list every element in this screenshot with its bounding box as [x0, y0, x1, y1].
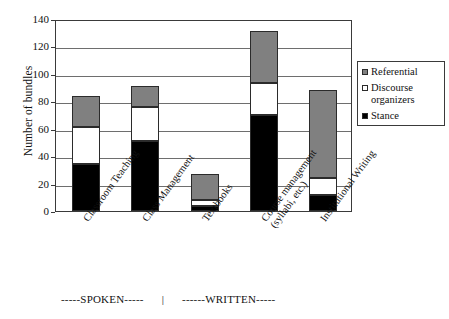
bar-segment-discourse-organizers[interactable] [72, 127, 100, 164]
bar-class-management[interactable] [131, 19, 159, 211]
legend-swatch-discourse-organizers [362, 85, 368, 91]
bar-segment-referential[interactable] [72, 96, 100, 128]
legend-label-stance: Stance [371, 110, 441, 121]
legend-item-stance[interactable]: Stance [362, 110, 441, 121]
register-divider: | [162, 293, 164, 305]
bar-segment-referential[interactable] [250, 31, 278, 83]
y-tick-mark-0 [51, 212, 55, 213]
legend-item-referential[interactable]: Referential [362, 66, 441, 77]
legend-label-discourse-line2: organizers [371, 94, 415, 105]
bar-segment-discourse-organizers[interactable] [131, 107, 159, 141]
y-tick-label-20: 20 [15, 179, 49, 190]
y-tick-label-80: 80 [15, 96, 49, 107]
legend: Referential Discourse organizers Stance [357, 61, 445, 126]
legend-swatch-referential [362, 69, 368, 75]
bar-segment-discourse-organizers[interactable] [309, 178, 337, 194]
legend-label-referential: Referential [371, 66, 441, 77]
y-tick-label-100: 100 [15, 69, 49, 80]
y-tick-label-60: 60 [15, 124, 49, 135]
y-tick-label-40: 40 [15, 151, 49, 162]
stacked-bar-chart: Number of bundles 140120100806040200 Cla… [0, 0, 449, 319]
legend-label-discourse-line1: Discourse [371, 82, 413, 93]
register-annotation: -----SPOKEN----- | ------WRITTEN----- [55, 291, 352, 307]
y-tick-label-0: 0 [15, 206, 49, 217]
bar-segment-discourse-organizers[interactable] [250, 83, 278, 115]
y-tick-label-140: 140 [15, 14, 49, 25]
bar-course-management-syllabi-etc[interactable] [250, 19, 278, 211]
y-axis-title: Number of bundles [22, 31, 34, 191]
bar-institutional-writing[interactable] [309, 19, 337, 211]
legend-item-discourse-organizers[interactable]: Discourse organizers [362, 82, 441, 105]
y-tick-label-120: 120 [15, 41, 49, 52]
bar-classroom-teaching[interactable] [72, 19, 100, 211]
register-label-written: ------WRITTEN----- [182, 293, 275, 305]
bar-segment-referential[interactable] [131, 86, 159, 107]
legend-swatch-stance [362, 113, 368, 119]
bar-textbooks[interactable] [191, 19, 219, 211]
register-label-spoken: -----SPOKEN----- [61, 293, 144, 305]
legend-label-discourse-organizers: Discourse organizers [371, 82, 441, 105]
